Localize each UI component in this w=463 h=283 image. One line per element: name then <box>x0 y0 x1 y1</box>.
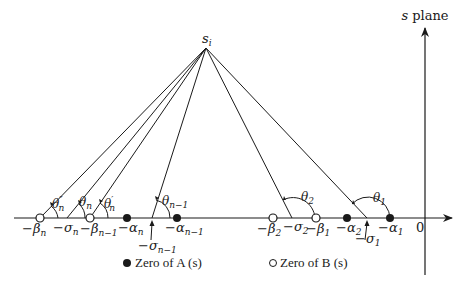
label-sigma-n: −σn <box>53 220 79 237</box>
axis-labels: −βn −σn −βn−1 −αn −σn−1 −αn−1 −β2 −σ2 −β… <box>22 219 403 255</box>
plane-title: s plane <box>401 8 448 23</box>
label-theta-2: θ2 <box>301 190 314 206</box>
label-alpha-1: −α1 <box>378 220 403 237</box>
ray-sigma-2 <box>206 48 292 218</box>
ray-sigma-n <box>67 48 206 218</box>
ray-beta-n-1 <box>90 48 206 218</box>
ray-sigma-1 <box>206 48 367 218</box>
label-theta-1: θ1 <box>373 191 386 207</box>
legend-a-zero-label: Zero of A (s) <box>135 255 202 270</box>
label-sigma-1: −σ1 <box>355 231 381 248</box>
label-theta-n-prime: θ′n <box>104 195 115 213</box>
label-beta-n-1: −βn−1 <box>80 221 118 238</box>
label-beta-n: −βn <box>22 221 46 238</box>
ray-beta-n <box>40 48 206 218</box>
label-theta-n-double-prime: θ″n <box>52 195 65 213</box>
apex-label: si <box>202 31 212 48</box>
ray-sigma-n-1 <box>152 48 206 218</box>
label-theta-n: θn <box>79 195 92 211</box>
rays <box>40 48 367 218</box>
label-alpha-n: −αn <box>118 220 144 237</box>
legend-b-zero-icon <box>270 260 277 267</box>
label-theta-n-1: θn−1 <box>162 194 188 210</box>
s-plane-diagram: s plane si <box>0 0 463 283</box>
label-alpha-n-1: −αn−1 <box>165 220 204 237</box>
label-beta-1: −β1 <box>306 221 330 238</box>
label-beta-2: −β2 <box>257 221 281 238</box>
origin-label: 0 <box>416 220 424 235</box>
label-sigma-n-1: −σn−1 <box>138 238 177 255</box>
label-sigma-2: −σ2 <box>283 219 309 236</box>
legend-b-zero-label: Zero of B (s) <box>280 255 348 270</box>
legend-a-zero-icon <box>123 259 131 267</box>
